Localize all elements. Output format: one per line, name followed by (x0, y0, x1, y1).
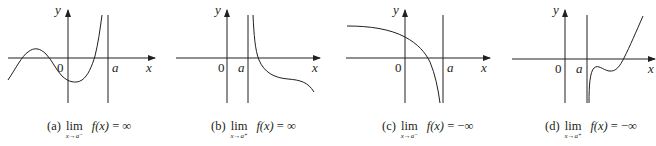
value-b: ∞ (287, 119, 296, 133)
expr-b: f(x) (256, 119, 273, 133)
panel-d-graph: y 0 a x (512, 2, 655, 103)
origin-label-d: 0 (555, 61, 562, 76)
caption-b: (b) limx→a⁺f(x) = ∞ (211, 119, 296, 134)
origin-label-c: 0 (395, 60, 402, 75)
eq-c: = (444, 119, 457, 133)
caption-tag-b: (b) (211, 119, 226, 133)
eq-a: = (109, 119, 122, 133)
caption-c: (c) limx→a⁻f(x) = −∞ (382, 119, 473, 134)
expr-a: f(x) (92, 119, 109, 133)
a-label-a: a (112, 60, 119, 75)
lim-sub-c: x→a⁻ (401, 132, 418, 140)
lim-sub-b: x→a⁺ (230, 132, 247, 140)
value-c: −∞ (457, 119, 473, 133)
lim-word-a: lim (66, 119, 83, 133)
lim-c: limx→a⁻ (401, 119, 418, 134)
expr-c: f(x) (427, 119, 444, 133)
value-a: ∞ (122, 119, 131, 133)
panel-b-graph: y 0 a x (176, 2, 320, 103)
curve-c (347, 26, 440, 103)
caption-d: (d) limx→a⁺f(x) = −∞ (545, 119, 637, 134)
value-d: −∞ (621, 119, 637, 133)
curve-b (253, 15, 314, 92)
expr-d: f(x) (590, 119, 607, 133)
caption-tag-d: (d) (545, 119, 560, 133)
lim-word-b: lim (231, 119, 248, 133)
x-label-a: x (145, 60, 152, 75)
caption-tag-a: (a) (47, 119, 61, 133)
x-label-c: x (480, 60, 487, 75)
lim-d: limx→a⁺ (565, 119, 582, 134)
eq-d: = (608, 119, 621, 133)
lim-sub-a: x→a⁻ (66, 132, 83, 140)
curve-a (8, 15, 102, 82)
panel-a-graph: y 0 a x (8, 2, 155, 103)
lim-a: limx→a⁻ (66, 119, 83, 134)
y-label-a: y (53, 2, 61, 17)
eq-b: = (274, 119, 287, 133)
a-label-b: a (238, 60, 245, 75)
lim-b: limx→a⁺ (231, 119, 248, 134)
lim-sub-d: x→a⁺ (564, 132, 581, 140)
y-label-c: y (391, 2, 399, 17)
lim-word-c: lim (401, 119, 418, 133)
caption-tag-c: (c) (382, 119, 396, 133)
y-label-b: y (213, 2, 221, 17)
x-label-d: x (647, 61, 654, 76)
panel-c-graph: y 0 a x (346, 2, 490, 103)
a-label-d: a (576, 61, 583, 76)
x-label-b: x (311, 60, 318, 75)
origin-label-a: 0 (57, 60, 64, 75)
lim-word-d: lim (565, 119, 582, 133)
caption-a: (a) limx→a⁻f(x) = ∞ (47, 119, 131, 134)
origin-label-b: 0 (218, 60, 225, 75)
a-label-c: a (447, 60, 454, 75)
y-label-d: y (551, 2, 559, 17)
